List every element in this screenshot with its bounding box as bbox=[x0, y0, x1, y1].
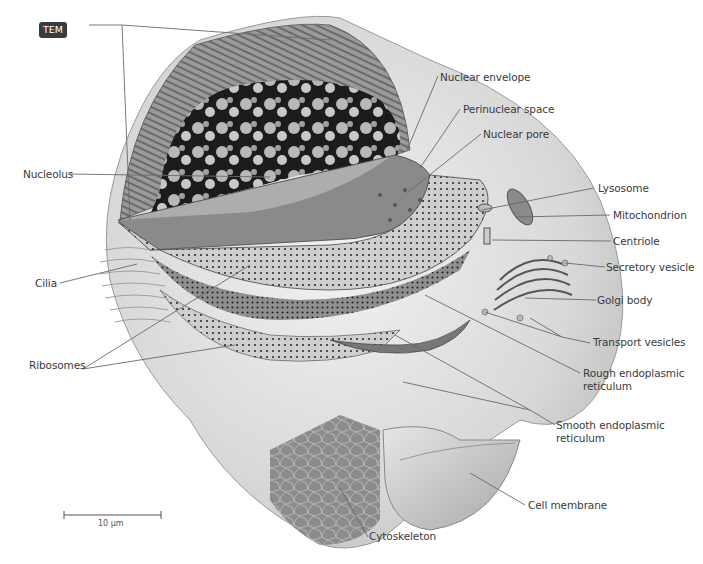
label-cell-membrane: Cell membrane bbox=[528, 499, 607, 512]
scale-bar-label: 10 µm bbox=[98, 519, 124, 528]
cell-diagram: TEM Nucleolus Cilia Ribosomes Nuclear en… bbox=[0, 0, 703, 564]
label-rough-er-line2: reticulum bbox=[583, 380, 684, 393]
label-golgi-body: Golgi body bbox=[597, 294, 652, 307]
label-lysosome: Lysosome bbox=[598, 182, 649, 195]
label-cytoskeleton: Cytoskeleton bbox=[369, 530, 436, 543]
label-ribosomes: Ribosomes bbox=[29, 359, 85, 372]
centriole bbox=[484, 228, 490, 244]
label-nuclear-envelope: Nuclear envelope bbox=[440, 71, 530, 84]
label-cilia: Cilia bbox=[35, 277, 57, 290]
label-nucleolus: Nucleolus bbox=[23, 168, 73, 181]
cell-illustration bbox=[0, 0, 703, 564]
label-smooth-er: Smooth endoplasmic reticulum bbox=[556, 419, 665, 445]
label-smooth-er-line1: Smooth endoplasmic bbox=[556, 419, 665, 432]
label-perinuclear-space: Perinuclear space bbox=[463, 103, 554, 116]
label-nuclear-pore: Nuclear pore bbox=[483, 128, 549, 141]
scale-bar bbox=[64, 511, 161, 519]
label-mitochondrion: Mitochondrion bbox=[613, 209, 687, 222]
label-transport-vesicles: Transport vesicles bbox=[593, 336, 686, 349]
tem-badge: TEM bbox=[39, 22, 67, 38]
cell-membrane-flap bbox=[383, 427, 520, 530]
label-centriole: Centriole bbox=[613, 235, 660, 248]
label-rough-er: Rough endoplasmic reticulum bbox=[583, 367, 684, 393]
label-rough-er-line1: Rough endoplasmic bbox=[583, 367, 684, 380]
label-smooth-er-line2: reticulum bbox=[556, 432, 665, 445]
label-secretory-vesicle: Secretory vesicle bbox=[606, 261, 694, 274]
